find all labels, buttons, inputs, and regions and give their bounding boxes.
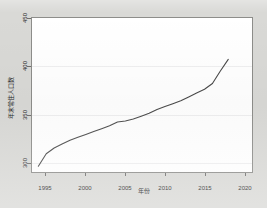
line-chart: 年末常住人口数 450 400 350 300: [0, 0, 267, 208]
series-line-layer: [32, 18, 252, 172]
x-axis-title-text: 年份: [138, 188, 150, 194]
y-axis-title: 年末常住人口数: [4, 50, 16, 145]
series-line-population: [38, 59, 228, 166]
figure-page: 年末常住人口数 450 400 350 300: [0, 0, 267, 208]
plot-area: [31, 17, 253, 173]
y-axis-title-text: 年末常住人口数: [6, 77, 15, 119]
x-axis-title: 年份: [0, 186, 267, 195]
